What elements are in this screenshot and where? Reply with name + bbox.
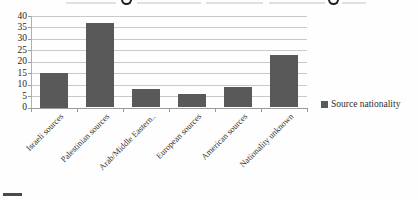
cropped-title-descender	[328, 0, 339, 5]
x-axis-tick	[307, 109, 308, 112]
cropped-title-fragment	[137, 2, 201, 4]
bar-israeli-sources	[40, 73, 68, 107]
gridline-25	[31, 50, 307, 51]
legend-swatch-icon	[321, 101, 328, 108]
cropped-title-fragment	[342, 2, 366, 4]
y-axis-tick-label: 40	[7, 12, 27, 21]
y-axis-tick-label: 15	[7, 69, 27, 78]
x-axis-tick	[77, 109, 78, 112]
x-axis-tick	[123, 109, 124, 112]
y-axis-tick-label: 20	[7, 57, 27, 66]
bar-nationality-unknown	[270, 55, 298, 108]
gridline-5	[31, 96, 307, 97]
legend-label: Source nationality	[331, 99, 400, 109]
x-axis-tick	[31, 109, 32, 112]
bar-american-sources	[224, 87, 252, 108]
y-axis	[31, 16, 32, 108]
x-axis-tick	[215, 109, 216, 112]
y-axis-tick-label: 10	[7, 80, 27, 89]
cropped-title-fragment	[269, 2, 325, 4]
y-axis-tick-label: 0	[7, 103, 27, 112]
bar-chart-screenshot: 0510152025303540Israeli sourcesPalestini…	[0, 0, 419, 200]
cropped-fragment-bottom-left	[3, 193, 22, 196]
cropped-title-descender	[121, 0, 132, 5]
cropped-title-fragment	[66, 2, 116, 4]
bar-european-sources	[178, 94, 206, 108]
gridline-10	[31, 85, 307, 86]
gridline-35	[31, 27, 307, 28]
y-axis-tick-label: 30	[7, 34, 27, 43]
gridline-20	[31, 62, 307, 63]
gridline-40	[31, 16, 307, 17]
gridline-15	[31, 73, 307, 74]
bar-palestinian-sources	[86, 23, 114, 108]
gridline-30	[31, 39, 307, 40]
x-axis-tick	[261, 109, 262, 112]
legend: Source nationality	[321, 99, 400, 109]
cropped-title-fragment	[206, 2, 263, 4]
y-axis-tick-label: 5	[7, 92, 27, 101]
bar-arab-middle-eastern	[132, 89, 160, 107]
x-axis-tick	[169, 109, 170, 112]
y-axis-tick-label: 35	[7, 23, 27, 32]
y-axis-tick-label: 25	[7, 46, 27, 55]
